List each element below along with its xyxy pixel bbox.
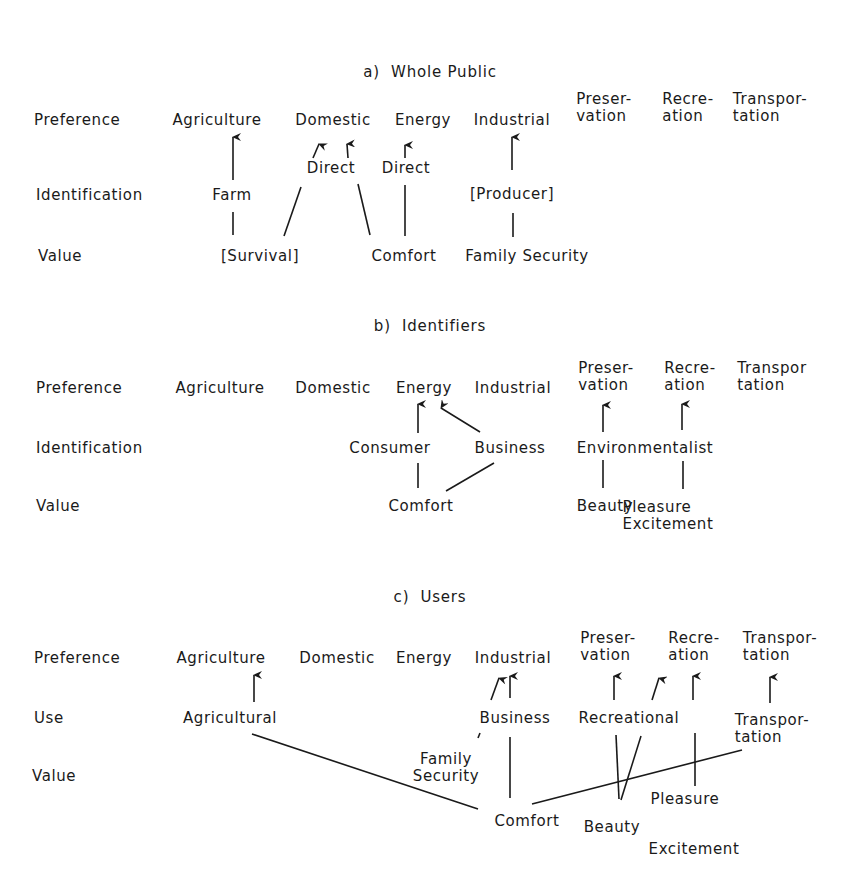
arrow-icon <box>652 678 659 700</box>
panel-b-connectors <box>418 404 683 491</box>
arrow-icon <box>313 144 319 158</box>
panel-c-connectors <box>252 675 770 809</box>
connector-layer <box>0 0 860 886</box>
arrow-icon <box>347 144 348 158</box>
arrow-icon <box>441 408 480 432</box>
panel-a-connectors <box>233 137 513 237</box>
arrow-icon <box>491 678 499 700</box>
